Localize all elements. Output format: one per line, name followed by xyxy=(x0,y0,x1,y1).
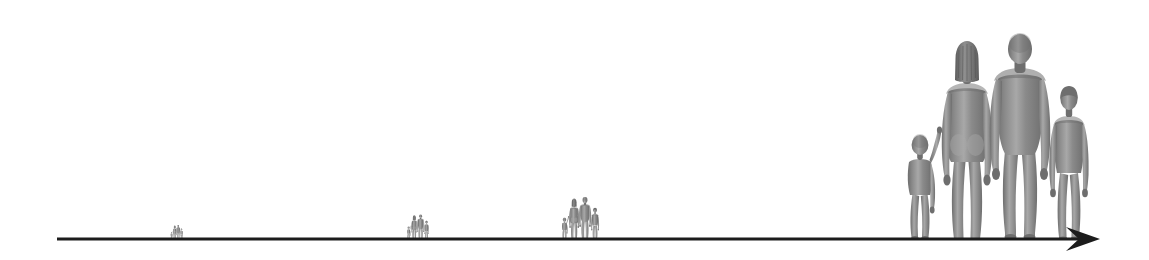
family-group-largest xyxy=(898,33,1093,239)
family-group-small xyxy=(406,214,429,239)
scale-progression-diagram xyxy=(0,0,1149,260)
child-figure xyxy=(180,229,183,239)
family-figures xyxy=(562,197,599,239)
child-figure xyxy=(424,221,429,239)
toddler-figure xyxy=(562,216,569,239)
child-figure xyxy=(591,208,599,239)
family-group-smallest xyxy=(170,225,183,239)
family-figures xyxy=(908,33,1089,239)
toddler-figure xyxy=(171,231,173,239)
child-figure xyxy=(1049,86,1088,239)
man-figure xyxy=(990,33,1051,239)
man-figure xyxy=(417,214,424,239)
family-figures xyxy=(407,214,429,239)
woman-figure xyxy=(942,41,993,239)
woman-figure xyxy=(569,198,579,239)
family-group-medium xyxy=(560,197,600,239)
man-figure xyxy=(579,197,591,239)
woman-figure xyxy=(411,215,417,239)
woman-figure xyxy=(173,226,176,239)
toddler-figure xyxy=(908,126,942,239)
toddler-figure xyxy=(407,225,411,239)
family-figures xyxy=(171,225,183,239)
man-figure xyxy=(176,225,180,239)
